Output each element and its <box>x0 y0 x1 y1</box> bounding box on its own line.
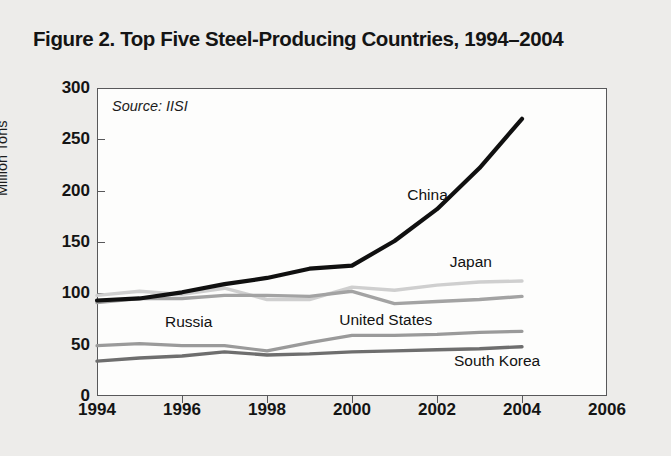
series-label-china: China <box>407 186 448 204</box>
series-label-united-states: United States <box>339 311 432 329</box>
series-line-china <box>97 119 522 301</box>
series-label-japan: Japan <box>450 253 492 271</box>
series-label-south-korea: South Korea <box>454 352 540 370</box>
chart-lines <box>0 0 671 456</box>
series-label-russia: Russia <box>165 313 212 331</box>
figure-page: Figure 2. Top Five Steel-Producing Count… <box>0 0 671 456</box>
